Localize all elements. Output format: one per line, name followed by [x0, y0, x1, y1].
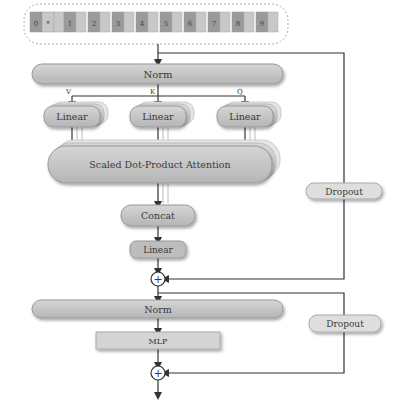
- token-embedding-cell: [148, 12, 158, 32]
- dropout-1-label: Dropout: [325, 187, 363, 197]
- token-cell: 1: [64, 12, 86, 32]
- token-embedding-cell: [76, 12, 86, 32]
- add-node-1: +: [151, 272, 165, 286]
- plus-icon: +: [153, 367, 162, 380]
- scaled-dot-product-attention: Scaled Dot-Product Attention: [48, 140, 280, 183]
- token-label: 6: [188, 20, 193, 28]
- label-v: V: [65, 88, 72, 96]
- token-cell: 2: [88, 12, 110, 32]
- token-label: 3: [116, 20, 120, 28]
- token-label: 1: [68, 20, 72, 28]
- linear-v-label: Linear: [56, 111, 88, 122]
- transformer-block-diagram: 0*123456789 Norm V K Q: [0, 0, 410, 414]
- token-label: 8: [236, 20, 240, 28]
- token-embedding-cell: [54, 12, 64, 32]
- token-embedding-cell: [100, 12, 110, 32]
- mlp-label: MLP: [149, 337, 169, 346]
- token-label: 4: [140, 20, 145, 28]
- token-cell: 4: [136, 12, 158, 32]
- token-label: 0: [34, 20, 38, 28]
- linear-k: Linear: [130, 102, 194, 127]
- norm-2-label: Norm: [144, 304, 172, 315]
- output-linear-label: Linear: [143, 245, 173, 255]
- token-cell: 5: [160, 12, 182, 32]
- token-cell: 8: [232, 12, 254, 32]
- linear-q-label: Linear: [229, 111, 261, 122]
- input-sequence: 0*123456789: [24, 4, 288, 44]
- token-label: 9: [260, 20, 264, 28]
- output-linear: Linear: [130, 241, 186, 258]
- token-embedding-cell: [268, 12, 278, 32]
- concat: Concat: [121, 205, 195, 226]
- token-embedding-cell: [220, 12, 230, 32]
- linear-k-label: Linear: [142, 111, 174, 122]
- mlp: MLP: [96, 332, 220, 349]
- label-q: Q: [237, 88, 243, 96]
- norm-2: Norm: [32, 300, 283, 318]
- plus-icon: +: [153, 273, 162, 286]
- dropout-2: Dropout: [309, 315, 381, 332]
- token-cell: 0: [30, 12, 42, 32]
- token-label: 7: [212, 20, 216, 28]
- dropout-1: Dropout: [306, 183, 382, 199]
- norm-1: Norm: [32, 64, 283, 84]
- dropout-2-label: Dropout: [326, 319, 364, 329]
- token-label: *: [46, 20, 50, 28]
- token-cell: 3: [112, 12, 134, 32]
- token-embedding-cell: [172, 12, 182, 32]
- token-cell: *: [42, 12, 64, 32]
- label-k: K: [150, 88, 156, 96]
- token-embedding-cell: [124, 12, 134, 32]
- linear-v: Linear: [44, 102, 108, 127]
- token-label: 5: [164, 20, 168, 28]
- concat-label: Concat: [141, 210, 175, 221]
- token-cell: 7: [208, 12, 230, 32]
- token-cell: 9: [256, 12, 278, 32]
- token-cell: 6: [184, 12, 206, 32]
- norm-1-label: Norm: [143, 69, 173, 80]
- sdpa-label: Scaled Dot-Product Attention: [89, 159, 230, 170]
- token-row: 0*123456789: [30, 12, 278, 32]
- token-embedding-cell: [196, 12, 206, 32]
- token-embedding-cell: [244, 12, 254, 32]
- token-label: 2: [92, 20, 96, 28]
- linear-q: Linear: [217, 102, 281, 127]
- add-node-2: +: [151, 366, 165, 380]
